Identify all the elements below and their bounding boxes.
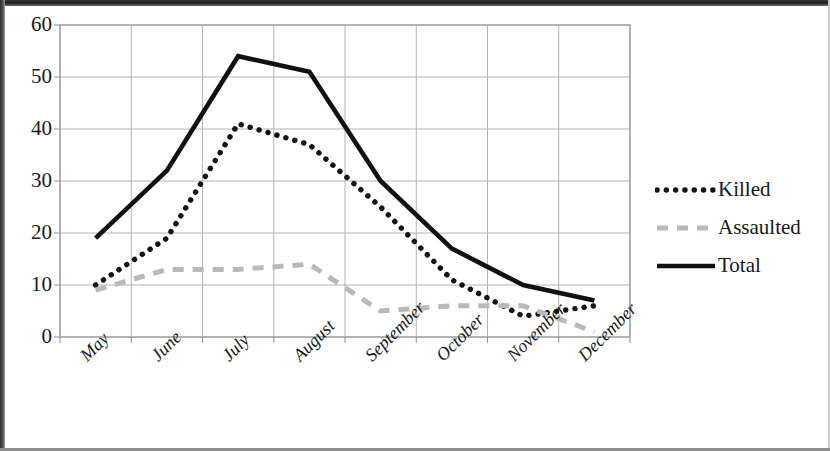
legend-item-assaulted: Assaulted [655, 208, 830, 246]
x-tick-label-august: August [289, 316, 339, 366]
legend-label: Killed [717, 179, 771, 200]
solid-line-sample [655, 258, 717, 272]
x-tick-label-december: December [574, 299, 641, 366]
dotted-line-sample [655, 182, 717, 196]
x-tick-label-september: September [361, 297, 430, 366]
x-tick-label-july: July [218, 330, 254, 366]
x-tick-label-october: October [432, 309, 489, 366]
legend-label: Total [717, 255, 761, 276]
dashed-line-sample [655, 220, 717, 234]
x-tick-label-november: November [503, 299, 570, 366]
x-tick-label-may: May [76, 328, 113, 365]
legend-item-total: Total [655, 246, 830, 284]
chart-page: 6050403020100 MayJuneJulyAugustSeptember… [0, 0, 830, 451]
legend-label: Assaulted [717, 217, 801, 238]
chart-legend: KilledAssaultedTotal [655, 170, 830, 284]
legend-item-killed: Killed [655, 170, 830, 208]
x-tick-label-june: June [147, 327, 186, 366]
